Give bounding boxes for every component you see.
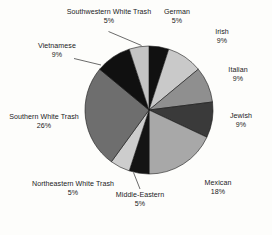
leader-line-middle-eastern [134, 173, 141, 190]
label-percent: 9% [221, 121, 261, 130]
label-name: Irish [205, 28, 239, 37]
label-percent: 26% [0, 122, 88, 131]
label-percent: 9% [219, 75, 257, 84]
pie-slices [85, 46, 213, 174]
label-name: Jewish [221, 112, 261, 121]
label-name: Mexican [196, 179, 240, 188]
label-percent: 5% [104, 200, 176, 209]
label-mexican: Mexican 18% [196, 179, 240, 196]
label-percent: 9% [29, 51, 85, 60]
label-irish: Irish 9% [205, 28, 239, 45]
label-vietnamese: Vietnamese 9% [29, 42, 85, 59]
label-name: Italian [219, 66, 257, 75]
label-german: German 5% [155, 8, 199, 25]
label-southern-white-trash: Southern White Trash 26% [0, 113, 88, 130]
label-percent: 18% [196, 188, 240, 197]
label-northeastern-white-trash: Northeastern White Trash 5% [22, 180, 124, 197]
label-name: Southern White Trash [0, 113, 88, 122]
leader-line-vietnamese [74, 59, 101, 66]
label-italian: Italian 9% [219, 66, 257, 83]
label-name: Southwestern White Trash [54, 8, 164, 17]
label-percent: 9% [205, 37, 239, 46]
label-jewish: Jewish 9% [221, 112, 261, 129]
label-percent: 5% [22, 189, 124, 198]
label-name: German [155, 8, 199, 17]
label-percent: 5% [54, 17, 164, 26]
label-percent: 5% [155, 17, 199, 26]
label-name: Northeastern White Trash [22, 180, 124, 189]
label-name: Vietnamese [29, 42, 85, 51]
leader-line-southwestern [109, 32, 142, 46]
label-southwestern-white-trash: Southwestern White Trash 5% [54, 8, 164, 25]
pie-chart: Southwestern White Trash 5% German 5% Ir… [0, 0, 272, 235]
